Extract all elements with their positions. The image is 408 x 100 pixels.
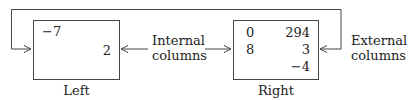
right-r2-c2: 3 — [270, 43, 310, 57]
external-label-line2: columns — [351, 48, 406, 63]
right-box: 0 294 8 3 −4 — [233, 20, 319, 80]
left-box: −7 2 — [33, 20, 120, 80]
left-caption: Left — [33, 83, 120, 98]
external-label-line1: External — [351, 33, 407, 48]
internal-label-line1: Internal — [152, 33, 205, 48]
right-r1-c2: 294 — [270, 26, 310, 40]
left-value-middle: 2 — [81, 44, 111, 58]
right-r3-c2: −4 — [270, 60, 310, 74]
right-r2-c1: 8 — [246, 43, 254, 57]
left-value-top: −7 — [42, 25, 61, 39]
diagram-canvas: −7 2 Left Internal columns 0 294 8 3 −4 … — [0, 0, 408, 100]
right-r1-c1: 0 — [246, 26, 254, 40]
internal-label-line2: columns — [152, 48, 207, 63]
right-caption: Right — [233, 83, 319, 98]
